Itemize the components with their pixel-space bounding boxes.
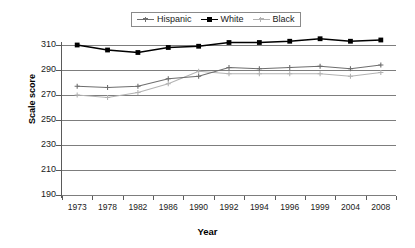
cross-marker-icon [348, 66, 353, 71]
square-marker-icon [227, 40, 232, 45]
legend-swatch-white [201, 15, 218, 24]
y-axis-tick-label-text: 270 [30, 90, 56, 99]
square-marker-icon [348, 39, 353, 44]
square-marker-icon [207, 17, 212, 22]
y-axis-tick-label-text: 230 [30, 140, 56, 149]
series-layer [62, 45, 396, 195]
cross-marker-icon [287, 71, 292, 76]
x-axis-tick [123, 196, 124, 200]
legend-swatch-hispanic [137, 15, 154, 24]
y-axis-tick-label: 230 [22, 140, 56, 149]
legend-item-white: White [201, 14, 244, 25]
y-axis-tick-label: 190 [22, 190, 56, 199]
x-axis-title: Year [0, 226, 415, 237]
cross-marker-icon [378, 62, 383, 67]
cross-marker-icon [105, 95, 110, 100]
cross-marker-icon [257, 66, 262, 71]
square-marker-icon [378, 38, 383, 43]
square-marker-icon [257, 40, 262, 45]
x-axis-tick [244, 196, 245, 200]
cross-marker-icon [196, 69, 201, 74]
cross-marker-icon [317, 64, 322, 69]
y-axis-tick [56, 95, 61, 96]
cross-marker-icon [143, 17, 148, 22]
y-axis-tick [56, 70, 61, 71]
x-axis-tick [275, 196, 276, 200]
cross-marker-icon [259, 17, 264, 22]
legend-label-hispanic: Hispanic [157, 14, 192, 25]
x-axis-tick [183, 196, 184, 200]
y-axis-tick-label: 210 [22, 165, 56, 174]
y-axis-tick [56, 120, 61, 121]
cross-marker-icon [75, 92, 80, 97]
cross-marker-icon [348, 74, 353, 79]
cross-marker-icon [196, 74, 201, 79]
square-marker-icon [287, 39, 292, 44]
y-axis-tick-label-text: 290 [30, 65, 56, 74]
cross-marker-icon [226, 65, 231, 70]
y-axis-tick-label: 250 [22, 115, 56, 124]
y-axis-tick [56, 195, 61, 196]
y-axis-tick-label-text: 190 [30, 190, 56, 199]
legend-swatch-black [253, 15, 270, 24]
chart-legend: Hispanic White Black [131, 12, 301, 27]
x-axis-tick [62, 196, 63, 200]
cross-marker-icon [105, 85, 110, 90]
cross-marker-icon [135, 90, 140, 95]
square-marker-icon [136, 50, 141, 55]
x-axis-tick [92, 196, 93, 200]
legend-label-white: White [221, 14, 244, 25]
y-axis-tick-label: 290 [22, 65, 56, 74]
cross-marker-icon [287, 65, 292, 70]
legend-item-hispanic: Hispanic [137, 14, 192, 25]
cross-marker-icon [257, 71, 262, 76]
y-axis-tick-label-text: 250 [30, 115, 56, 124]
square-marker-icon [105, 48, 110, 53]
cross-marker-icon [135, 84, 140, 89]
cross-marker-icon [378, 70, 383, 75]
cross-marker-icon [226, 71, 231, 76]
x-axis-tick [214, 196, 215, 200]
series-black [75, 69, 384, 100]
series-white [75, 36, 383, 55]
x-axis-tick-label: 2008 [361, 202, 401, 212]
x-axis-tick [305, 196, 306, 200]
y-axis-tick-label-text: 210 [30, 165, 56, 174]
square-marker-icon [196, 44, 201, 49]
cross-marker-icon [166, 81, 171, 86]
y-axis-tick-label: 270 [22, 90, 56, 99]
square-marker-icon [166, 45, 171, 50]
x-axis-tick [335, 196, 336, 200]
y-axis-tick [56, 145, 61, 146]
legend-item-black: Black [253, 14, 295, 25]
x-axis-tick [396, 196, 397, 200]
y-axis-tick [56, 170, 61, 171]
square-marker-icon [75, 43, 80, 48]
line-chart-figure: Hispanic White Black Scale score Year 19… [0, 0, 415, 248]
x-axis-tick [366, 196, 367, 200]
legend-label-black: Black [273, 14, 295, 25]
square-marker-icon [318, 36, 323, 41]
cross-marker-icon [75, 84, 80, 89]
plot-area [62, 45, 396, 195]
y-axis-tick-label-text: 310 [30, 40, 56, 49]
x-axis-tick [153, 196, 154, 200]
y-axis-tick-label: 310 [22, 40, 56, 49]
gridline [62, 195, 396, 196]
cross-marker-icon [317, 71, 322, 76]
cross-marker-icon [166, 76, 171, 81]
y-axis-tick [56, 45, 61, 46]
